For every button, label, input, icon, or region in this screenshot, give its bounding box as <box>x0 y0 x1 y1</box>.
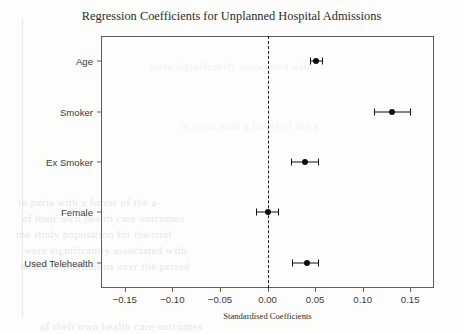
errorbar-cap-ex-smoker-high <box>318 159 319 166</box>
ghost-text-line: of their own health care outcomes <box>40 320 203 332</box>
errorbar-cap-ex-smoker-low <box>291 159 292 166</box>
x-tick-mark <box>172 288 173 292</box>
y-tick-label-female: Female <box>0 207 93 218</box>
x-tick-mark <box>220 288 221 292</box>
y-tick-label-used-telehealth: Used Telehealth <box>0 257 93 268</box>
x-tick-label: 0.10 <box>353 294 372 305</box>
errorbar-cap-age-low <box>310 58 311 65</box>
point-marker-ex-smoker <box>302 159 308 165</box>
x-tick-label: −0.10 <box>160 294 184 305</box>
point-marker-smoker <box>389 109 395 115</box>
x-axis-title: Standardised Coefficients <box>101 311 434 321</box>
y-tick-mark <box>97 162 101 163</box>
y-tick-mark <box>97 262 101 263</box>
point-marker-used-telehealth <box>304 260 310 266</box>
errorbar-cap-female-low <box>256 209 257 216</box>
x-tick-mark <box>125 288 126 292</box>
x-tick-label: 0.15 <box>401 294 420 305</box>
chart-page: in peris with a forest of the a- of thei… <box>0 0 463 334</box>
x-tick-label: 0.05 <box>306 294 325 305</box>
errorbar-cap-smoker-low <box>374 108 375 115</box>
y-tick-mark <box>97 61 101 62</box>
y-tick-label-ex-smoker: Ex Smoker <box>0 157 93 168</box>
x-tick-label: −0.15 <box>113 294 137 305</box>
errorbar-cap-used-telehealth-low <box>292 259 293 266</box>
x-tick-label: 0.00 <box>258 294 277 305</box>
point-marker-age <box>313 58 319 64</box>
errorbar-cap-female-high <box>278 209 279 216</box>
x-tick-mark <box>363 288 364 292</box>
errorbar-cap-used-telehealth-high <box>318 259 319 266</box>
y-tick-label-age: Age <box>0 56 93 67</box>
y-tick-mark <box>97 111 101 112</box>
point-marker-female <box>265 209 271 215</box>
y-tick-label-smoker: Smoker <box>0 106 93 117</box>
x-tick-label: −0.05 <box>208 294 232 305</box>
y-tick-mark <box>97 212 101 213</box>
x-tick-mark <box>268 288 269 292</box>
zero-reference-line <box>268 36 269 288</box>
x-tick-mark <box>410 288 411 292</box>
errorbar-cap-smoker-high <box>410 108 411 115</box>
x-tick-mark <box>315 288 316 292</box>
errorbar-cap-age-high <box>322 58 323 65</box>
chart-title: Regression Coefficients for Unplanned Ho… <box>0 9 463 24</box>
